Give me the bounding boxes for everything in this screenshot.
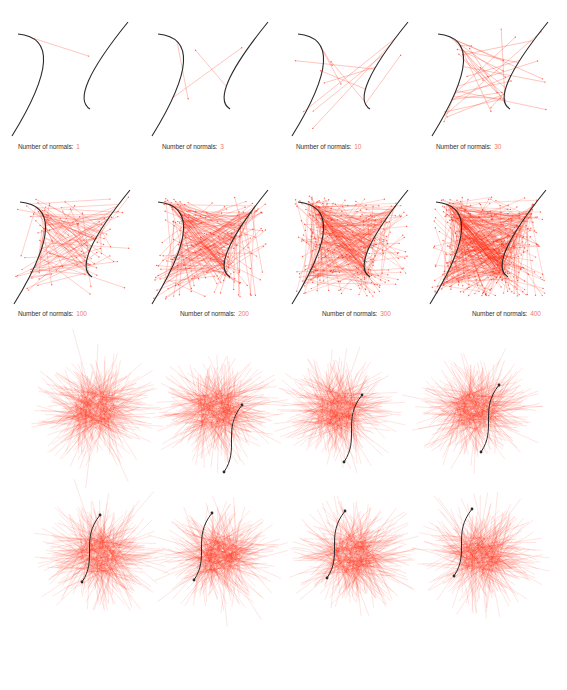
- panel-curve-sweep-8: [420, 505, 520, 630]
- curve-pair-diagram: [12, 182, 137, 307]
- normals-count: 30: [494, 143, 501, 150]
- panel-normals-1: Number of normals:1: [10, 14, 135, 154]
- panel-curve-sweep-2: [168, 360, 268, 485]
- normals-caption: Number of normals:3: [162, 143, 224, 150]
- curve-pair-diagram: [10, 14, 135, 139]
- normals-cloud-diagram: [425, 360, 525, 485]
- normals-caption: Number of normals:1: [18, 143, 80, 150]
- panel-curve-sweep-4: [425, 360, 525, 485]
- panel-curve-sweep-7: [293, 505, 393, 630]
- normals-cloud-diagram: [293, 505, 393, 630]
- normals-count: 400: [530, 310, 541, 317]
- curve-pair-diagram: [428, 182, 553, 307]
- normals-caption: Number of normals:200: [180, 310, 249, 317]
- normals-cloud-diagram: [40, 505, 140, 630]
- panel-curve-sweep-6: [160, 505, 260, 630]
- normals-cloud-diagram: [45, 360, 145, 485]
- normals-count: 1: [76, 143, 80, 150]
- curve-pair-diagram: [290, 14, 415, 139]
- normals-count: 200: [238, 310, 249, 317]
- panel-curve-sweep-1: [45, 360, 145, 485]
- panel-curve-sweep-5: [40, 505, 140, 630]
- normals-cloud-diagram: [288, 360, 388, 485]
- normals-cloud-diagram: [168, 360, 268, 485]
- panel-normals-30: Number of normals:30: [430, 14, 555, 154]
- normals-count: 10: [354, 143, 361, 150]
- curve-pair-diagram: [290, 182, 415, 307]
- panel-normals-3: Number of normals:3: [150, 14, 275, 154]
- normals-caption: Number of normals:30: [436, 143, 501, 150]
- panel-curve-sweep-3: [288, 360, 388, 485]
- normals-count: 3: [220, 143, 224, 150]
- panel-normals-200: Number of normals:200: [150, 182, 275, 322]
- panel-normals-10: Number of normals:10: [290, 14, 415, 154]
- normals-count: 100: [76, 310, 87, 317]
- normals-count: 300: [380, 310, 391, 317]
- panel-normals-100: Number of normals:100: [12, 182, 137, 322]
- normals-caption: Number of normals:300: [322, 310, 391, 317]
- curve-pair-diagram: [150, 182, 275, 307]
- normals-caption: Number of normals:100: [18, 310, 87, 317]
- normals-caption: Number of normals:400: [472, 310, 541, 317]
- normals-caption: Number of normals:10: [296, 143, 361, 150]
- curve-pair-diagram: [430, 14, 555, 139]
- panel-normals-300: Number of normals:300: [290, 182, 415, 322]
- panel-normals-400: Number of normals:400: [428, 182, 553, 322]
- normals-cloud-diagram: [420, 505, 520, 630]
- normals-cloud-diagram: [160, 505, 260, 630]
- curve-pair-diagram: [150, 14, 275, 139]
